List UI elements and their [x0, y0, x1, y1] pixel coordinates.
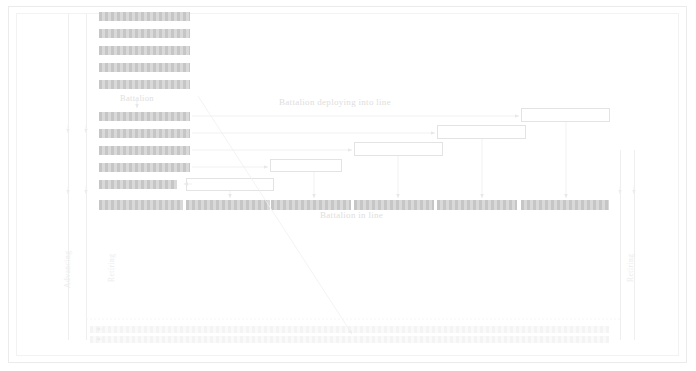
line-segment-bar [186, 200, 270, 210]
guide-line-retiring-left [86, 14, 87, 340]
column-company-bar [99, 63, 190, 72]
label-battalion-deploying: Battalion deploying into line [279, 97, 391, 107]
column-company-bar [99, 129, 190, 138]
column-company-bar [99, 46, 190, 55]
column-company-bar [99, 112, 190, 121]
column-company-bar [99, 163, 190, 172]
diagram-canvas: Battalion Battalion deploying into line … [0, 0, 696, 371]
column-company-bar [99, 29, 190, 38]
guide-line-right-outer [634, 150, 635, 340]
deploying-box [354, 142, 443, 156]
line-segment-bar [271, 200, 351, 210]
line-segment-bar [99, 200, 183, 210]
column-company-bar [99, 80, 190, 89]
deploying-box [521, 108, 610, 122]
bottom-row-bar [90, 336, 609, 343]
label-battalion: Battalion [120, 93, 154, 103]
label-retiring-right: Retiring [626, 253, 635, 282]
deploying-box [186, 178, 274, 191]
line-segment-bar [521, 200, 609, 210]
label-retiring-left: Retiring [107, 253, 116, 282]
line-segment-bar [437, 200, 517, 210]
deploying-box [270, 159, 342, 172]
label-battalion-in-line: Battalion in line [320, 210, 383, 220]
column-company-bar [99, 146, 190, 155]
bottom-row-bar [90, 326, 609, 333]
guide-line-advancing [68, 14, 69, 340]
line-segment-bar [354, 200, 434, 210]
deploying-box [437, 125, 526, 139]
column-company-bar [99, 180, 177, 189]
guide-line-retiring-right [620, 150, 621, 340]
column-company-bar [99, 12, 190, 21]
label-advancing: Advancing [63, 251, 72, 288]
